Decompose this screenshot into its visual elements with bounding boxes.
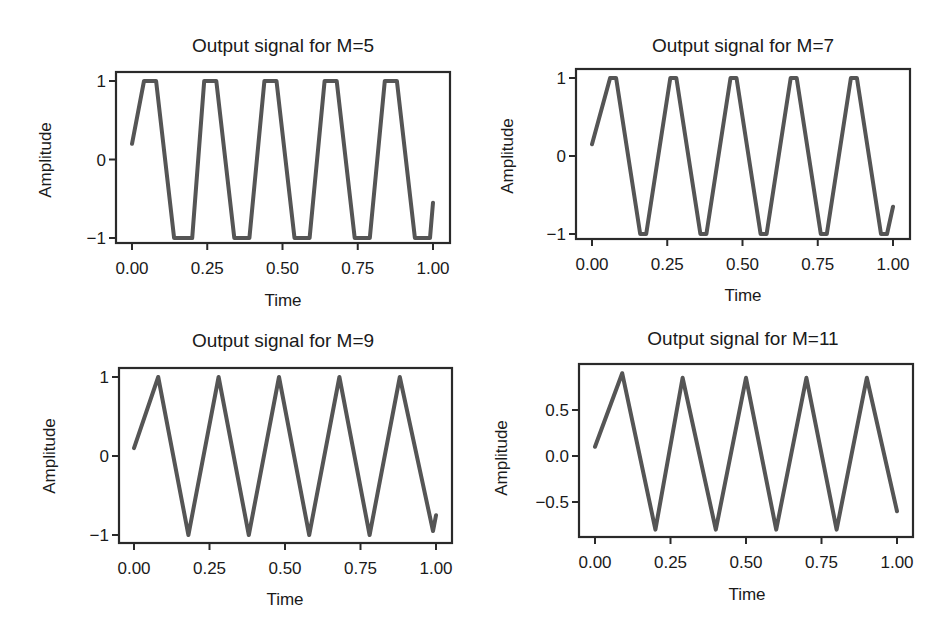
- y-axis: 10−1: [547, 69, 576, 244]
- y-axis-label: Amplitude: [40, 418, 59, 494]
- subplot-title: Output signal for M=9: [192, 330, 374, 351]
- x-tick-label: 0.00: [117, 559, 150, 578]
- x-tick-label: 0.25: [193, 559, 226, 578]
- y-tick-label: 0: [97, 151, 106, 170]
- signal-line: [134, 377, 436, 535]
- y-axis-label: Amplitude: [36, 122, 55, 198]
- subplot-m9: Output signal for M=9 10−1 0.000.250.500…: [40, 330, 453, 609]
- y-tick-label: −1: [547, 225, 566, 244]
- y-axis: 10−1: [87, 72, 116, 248]
- x-tick-label: 0.00: [115, 259, 148, 278]
- x-tick-label: 0.75: [805, 553, 838, 572]
- x-tick-label: 0.50: [726, 255, 759, 274]
- x-tick-label: 0.25: [191, 259, 224, 278]
- x-axis-label: Time: [724, 286, 761, 305]
- x-axis: 0.000.250.500.751.00: [575, 239, 909, 274]
- x-tick-label: 1.00: [876, 255, 909, 274]
- y-tick-label: 0: [557, 147, 566, 166]
- y-tick-label: 0.0: [545, 447, 569, 466]
- x-axis: 0.000.250.500.751.00: [115, 243, 449, 278]
- x-tick-label: 1.00: [416, 259, 449, 278]
- x-axis-label: Time: [266, 590, 303, 609]
- x-axis-label: Time: [264, 291, 301, 310]
- y-tick-label: −0.5: [535, 493, 569, 512]
- y-tick-label: 0.5: [545, 401, 569, 420]
- subplot-title: Output signal for M=7: [652, 35, 834, 56]
- figure-grid: Output signal for M=5 10−1 0.000.250.500…: [0, 0, 950, 633]
- subplot-title: Output signal for M=11: [647, 328, 838, 349]
- y-tick-label: −1: [90, 526, 109, 545]
- x-tick-label: 0.50: [729, 553, 762, 572]
- y-axis-label: Amplitude: [492, 420, 511, 496]
- subplot-m5: Output signal for M=5 10−1 0.000.250.500…: [36, 35, 450, 310]
- y-axis: 0.50.0−0.5: [535, 401, 579, 512]
- x-tick-label: 0.25: [651, 255, 684, 274]
- x-axis: 0.000.250.500.751.00: [117, 543, 452, 578]
- x-tick-label: 0.50: [268, 559, 301, 578]
- x-tick-label: 0.75: [341, 259, 374, 278]
- y-axis-label: Amplitude: [498, 118, 517, 194]
- x-tick-label: 0.25: [654, 553, 687, 572]
- subplot-m11: Output signal for M=11 0.50.0−0.5 0.000.…: [492, 328, 914, 604]
- signal-line: [592, 78, 893, 234]
- signal-line: [132, 81, 433, 238]
- y-tick-label: 1: [97, 72, 106, 91]
- y-tick-label: 1: [100, 368, 109, 387]
- x-tick-label: 0.50: [266, 259, 299, 278]
- y-axis: 10−1: [90, 368, 119, 545]
- x-axis-label: Time: [728, 585, 765, 604]
- x-axis: 0.000.250.500.751.00: [578, 537, 913, 572]
- x-tick-label: 0.75: [344, 559, 377, 578]
- y-tick-label: 1: [557, 69, 566, 88]
- subplot-title: Output signal for M=5: [192, 35, 374, 56]
- x-tick-label: 0.00: [575, 255, 608, 274]
- subplot-m7: Output signal for M=7 10−1 0.000.250.500…: [498, 35, 910, 305]
- x-tick-label: 0.75: [801, 255, 834, 274]
- signal-line: [595, 373, 897, 529]
- y-tick-label: 0: [100, 447, 109, 466]
- x-tick-label: 0.00: [578, 553, 611, 572]
- x-tick-label: 1.00: [419, 559, 452, 578]
- y-tick-label: −1: [87, 229, 106, 248]
- x-tick-label: 1.00: [880, 553, 913, 572]
